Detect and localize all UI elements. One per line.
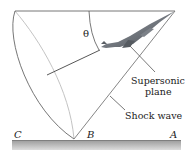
plane-label-line1: Supersonic (131, 75, 185, 86)
plane-leader (130, 46, 155, 72)
ground (12, 140, 181, 150)
point-b-label: B (86, 129, 94, 140)
theta-arc (89, 11, 99, 50)
supersonic-plane-icon (101, 11, 175, 48)
plane-label-line2: plane (145, 86, 172, 97)
cone-front-edge (13, 11, 74, 139)
point-a-label: A (169, 129, 177, 140)
theta-label: θ (83, 28, 89, 39)
shock-label: Shock wave (125, 110, 183, 121)
shock-leader (110, 96, 125, 110)
shock-wave-diagram: θ Supersonic plane Shock wave C B A (0, 0, 191, 153)
cone-axis (47, 50, 100, 75)
point-c-label: C (14, 129, 22, 140)
